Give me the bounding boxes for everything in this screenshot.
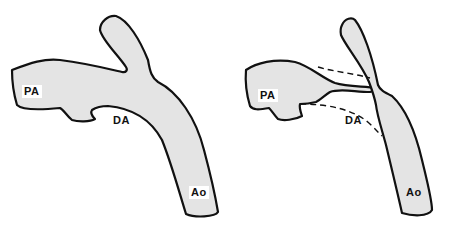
left-da-label: DA: [113, 114, 130, 126]
diagram-canvas: PA DA Ao PA DA Ao: [0, 0, 462, 229]
left-pa-label: PA: [24, 85, 39, 97]
right-da-label: DA: [345, 114, 362, 126]
right-original-ductus-contour: [300, 104, 382, 136]
right-pa-label: PA: [260, 89, 275, 101]
left-ao-label: Ao: [191, 186, 207, 198]
right-panel: PA DA Ao: [246, 18, 432, 215]
left-panel: PA DA Ao: [12, 16, 218, 217]
right-ao-label: Ao: [406, 186, 422, 198]
